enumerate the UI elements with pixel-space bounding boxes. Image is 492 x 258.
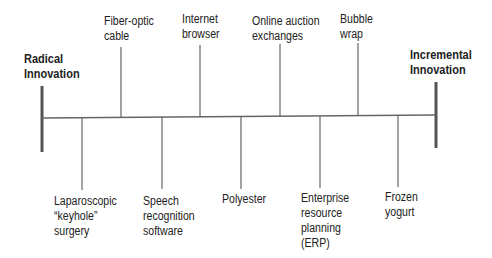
label-polyester: Polyester — [222, 192, 266, 207]
label-frozen-yogurt: Frozen yogurt — [385, 190, 418, 220]
label-speech-recognition: Speech recognition software — [143, 194, 195, 239]
label-laparoscopic: Laparoscopic “keyhole” surgery — [54, 194, 117, 239]
label-fiber-optic: Fiber-optic cable — [104, 14, 154, 44]
label-online-auction: Online auction exchanges — [252, 14, 320, 44]
label-internet-browser: Internet browser — [182, 12, 220, 42]
label-bubble-wrap: Bubble wrap — [340, 12, 373, 42]
main-axis-line — [42, 115, 436, 118]
radical-innovation-label: Radical Innovation — [24, 52, 80, 82]
label-erp: Enterprise resource planning (ERP) — [301, 191, 349, 251]
incremental-innovation-label: Incremental Innovation — [410, 48, 472, 78]
